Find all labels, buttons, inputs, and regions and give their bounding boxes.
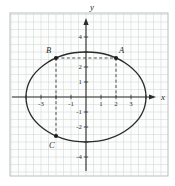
x-tick-label: -3	[38, 100, 44, 107]
figure: -3-1123421-1-2-4xyABC	[0, 0, 175, 186]
point-dot-B	[54, 56, 58, 60]
y-tick-label: -2	[76, 123, 82, 130]
y-tick-label: -4	[76, 153, 82, 160]
x-tick-label: 1	[99, 100, 102, 107]
x-axis-label: x	[160, 92, 165, 102]
y-tick-label: 1	[79, 78, 82, 85]
point-label-C: C	[49, 140, 55, 150]
x-tick-label: -1	[68, 100, 74, 107]
point-dot-C	[54, 134, 58, 138]
coordinate-plane: -3-1123421-1-2-4xyABC	[0, 0, 175, 186]
x-tick-label: 2	[114, 100, 118, 107]
y-tick-label: -1	[76, 108, 82, 115]
point-label-B: B	[46, 45, 51, 55]
point-dot-A	[114, 56, 118, 60]
x-tick-label: 3	[129, 100, 133, 107]
point-label-A: A	[118, 45, 125, 55]
y-tick-label: 2	[79, 63, 83, 70]
y-axis-label: y	[89, 2, 94, 12]
y-tick-label: 4	[79, 33, 83, 40]
